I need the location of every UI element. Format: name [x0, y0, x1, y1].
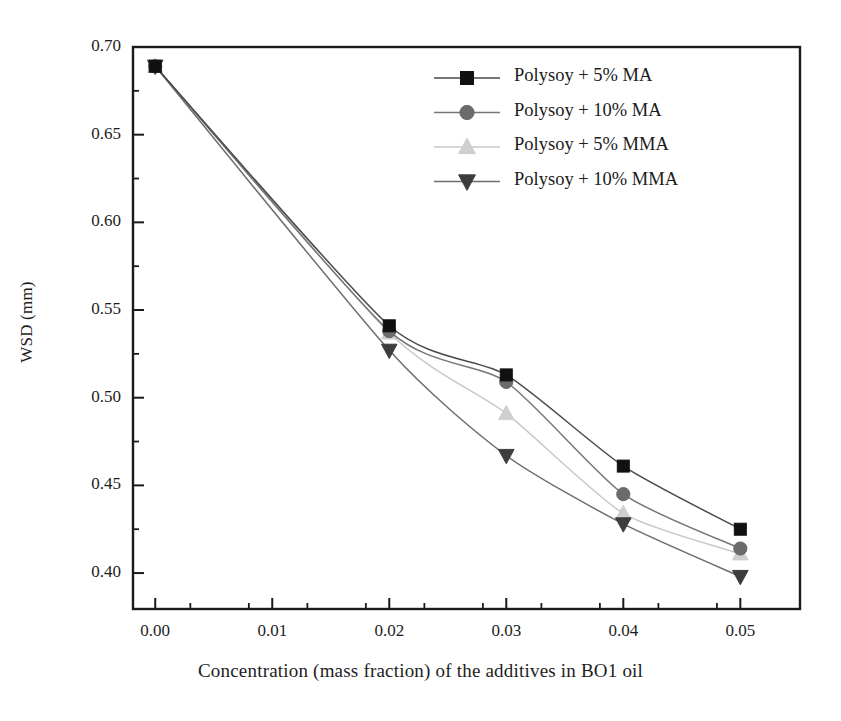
data-point-triangle-down	[498, 449, 514, 463]
y-tick-label: 0.45	[51, 474, 121, 494]
data-point-square	[461, 72, 474, 85]
series-0	[149, 60, 746, 535]
legend-label: Polysoy + 5% MMA	[514, 134, 669, 155]
legend-label: Polysoy + 10% MA	[514, 100, 662, 121]
x-tick-label: 0.03	[471, 621, 541, 641]
data-point-square	[734, 523, 746, 535]
legend-marker-group	[434, 72, 500, 191]
data-point-square	[617, 460, 629, 472]
y-tick-label: 0.65	[51, 124, 121, 144]
legend-item-1	[434, 105, 500, 119]
data-point-square	[500, 369, 512, 381]
y-axis-title: WSD (mm)	[17, 232, 37, 412]
plot-frame	[133, 47, 800, 609]
data-point-circle	[617, 488, 630, 501]
x-tick-label: 0.04	[588, 621, 658, 641]
legend-label: Polysoy + 10% MMA	[514, 169, 678, 190]
data-point-triangle-down	[459, 175, 476, 190]
x-axis-title: Concentration (mass fraction) of the add…	[0, 660, 841, 682]
legend-item-0	[434, 72, 500, 85]
data-point-triangle-up	[459, 138, 476, 153]
data-point-square	[149, 60, 161, 72]
plot-area	[0, 0, 841, 721]
y-tick-label: 0.70	[51, 36, 121, 56]
data-point-triangle-down	[616, 518, 632, 532]
x-tick-label: 0.05	[705, 621, 775, 641]
x-tick-label: 0.02	[354, 621, 424, 641]
data-point-circle	[460, 105, 474, 119]
data-point-circle	[734, 542, 747, 555]
x-tick-label: 0.01	[237, 621, 307, 641]
x-tick-label: 0.00	[120, 621, 190, 641]
data-point-triangle-down	[733, 570, 749, 584]
legend-item-3	[434, 175, 500, 190]
y-tick-label: 0.50	[51, 387, 121, 407]
chart-figure: Concentration (mass fraction) of the add…	[0, 0, 841, 721]
data-point-triangle-up	[498, 405, 514, 419]
legend-item-2	[434, 138, 500, 153]
y-tick-label: 0.40	[51, 562, 121, 582]
y-tick-label: 0.55	[51, 299, 121, 319]
data-point-square	[383, 320, 395, 332]
y-tick-label: 0.60	[51, 211, 121, 231]
legend-label: Polysoy + 5% MA	[514, 65, 652, 86]
